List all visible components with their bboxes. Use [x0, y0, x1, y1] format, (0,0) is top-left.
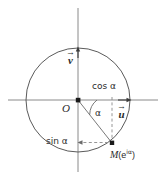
diagram-canvas: [0, 0, 161, 177]
angle-alpha-label: α: [95, 109, 101, 118]
unit-circle-diagram: O α cos α sin α → u → v M(eiα): [0, 0, 161, 177]
point-m-label: M(eiα): [110, 149, 135, 160]
point-m-close-paren: ): [132, 150, 135, 160]
vector-v-label: → v: [66, 50, 75, 66]
vector-u-label: → u: [117, 104, 126, 120]
sin-alpha-label: sin α: [46, 137, 68, 146]
cos-alpha-label: cos α: [92, 82, 116, 91]
origin-point-marker: [76, 98, 81, 103]
vector-u-arrowhead: [127, 98, 132, 102]
point-m-marker: [110, 141, 114, 145]
origin-label: O: [62, 103, 70, 114]
vector-v-arrowhead: [76, 47, 80, 52]
radius-segment-om: [78, 100, 112, 143]
